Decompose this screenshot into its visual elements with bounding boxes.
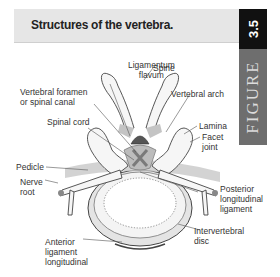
label-posterior-longitudinal-ligament: Posteriorlongitudinalligament <box>220 184 263 214</box>
label-anterior-ligament-longitudinal: Anteriorligamentlongitudinal <box>45 237 88 267</box>
label-spinal-cord: Spinal cord <box>47 117 90 127</box>
spinal-cord <box>124 136 156 170</box>
label-vertebral-arch: Vertebral arch <box>171 89 224 99</box>
label-pedicle: Pedicle <box>16 162 44 172</box>
label-intervertebral-disc: Intervertebraldisc <box>194 226 244 246</box>
label-facet-joint: Facetjoint <box>202 132 223 152</box>
label-spine: Spine <box>153 63 175 73</box>
label-nerve-root: Nerveroot <box>20 177 43 197</box>
label-vertebral-foramen: Vertebral foramenor spinal canal <box>20 87 88 107</box>
label-lamina: Lamina <box>199 121 227 131</box>
